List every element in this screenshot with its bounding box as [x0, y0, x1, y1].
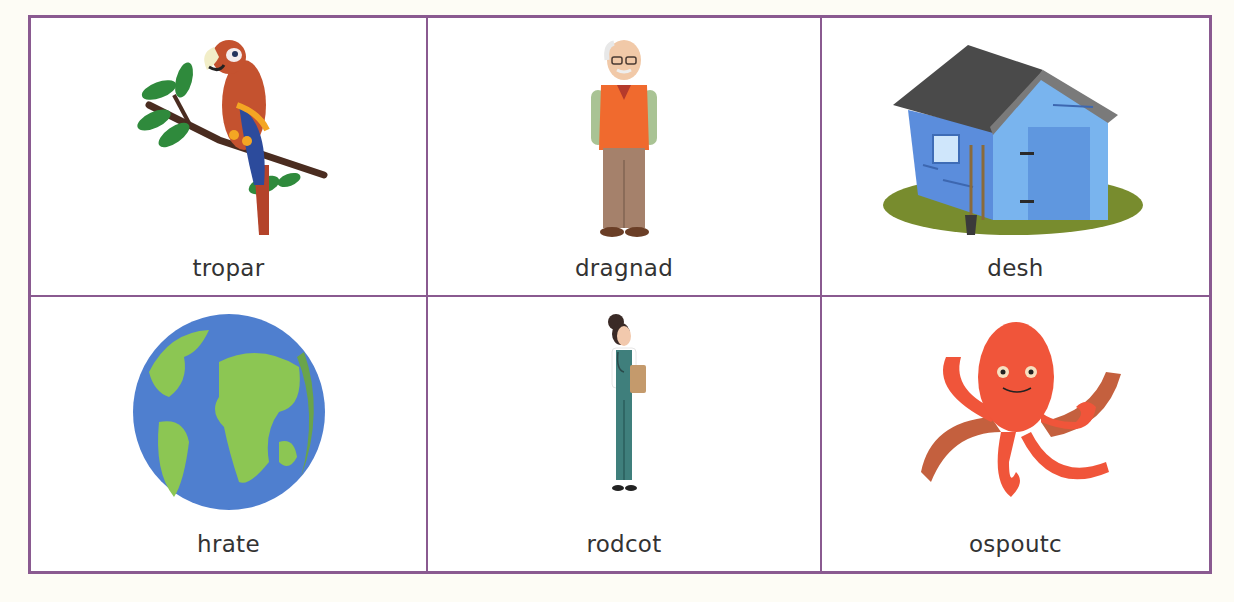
card-octopus: ospoutc [822, 297, 1209, 571]
grandad-icon [428, 30, 820, 245]
card-label: dragnad [428, 255, 820, 281]
octopus-icon [822, 307, 1209, 522]
card-grandad: dragnad [428, 18, 822, 297]
card-label: ospoutc [822, 531, 1209, 557]
anagram-picture-grid: tropar [28, 15, 1212, 574]
card-label: desh [822, 255, 1209, 281]
card-label: tropar [31, 255, 426, 281]
card-shed: desh [822, 18, 1209, 297]
doctor-icon [428, 305, 820, 520]
shed-icon [822, 30, 1209, 245]
earth-globe-icon [31, 307, 426, 522]
parrot-icon [31, 30, 426, 245]
card-earth: hrate [31, 297, 428, 571]
card-label: rodcot [428, 531, 820, 557]
card-doctor: rodcot [428, 297, 822, 571]
card-parrot: tropar [31, 18, 428, 297]
card-label: hrate [31, 531, 426, 557]
